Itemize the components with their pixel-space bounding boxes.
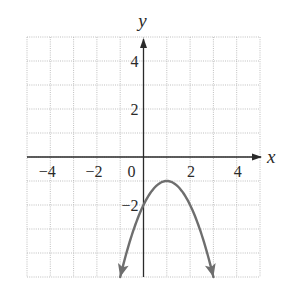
y-tick-label: −2 (121, 197, 138, 214)
x-tick-label: 2 (187, 163, 195, 180)
x-tick-label: −2 (85, 163, 102, 180)
x-tick-label: 0 (128, 163, 136, 180)
y-axis-label: y (136, 10, 147, 31)
x-tick-label: 4 (234, 163, 242, 180)
tick-labels: −4−202442−2 (39, 53, 242, 214)
x-axis-label: x (266, 146, 276, 167)
axes: x y (27, 10, 276, 277)
coordinate-plane: x y −4−202442−2 (0, 0, 285, 295)
y-tick-label: 4 (131, 53, 139, 70)
y-tick-label: 2 (131, 101, 139, 118)
x-tick-label: −4 (39, 163, 56, 180)
